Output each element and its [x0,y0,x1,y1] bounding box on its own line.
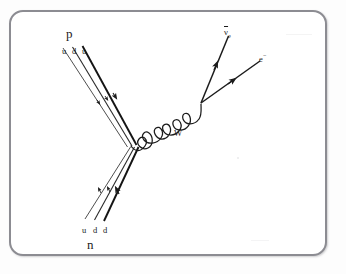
proton-quark-lines [63,46,137,147]
w-boson-wavy-line [131,104,201,151]
proton-quark-label-u2: u [82,47,86,56]
figure-root: p u d u u d d n W− νe e− [0,0,346,274]
neutron-quark-lines [85,147,139,221]
w-boson-label: W− [174,127,186,137]
quark-arrow-u3 [99,189,101,193]
neutron-quark-label-u: u [82,226,86,235]
antineutrino-label: νe [224,28,231,39]
neutron-quark-label-d1: d [93,226,97,235]
quark-line-u2 [83,46,137,145]
neutron-quark-label-d2: d [103,226,107,235]
proton-label: p [66,27,73,40]
proton-quark-label-d1: d [72,47,76,56]
electron-arrow [228,80,234,84]
quark-line-u1 [63,48,128,147]
quark-line-u3 [85,147,131,219]
quark-arrow-d1 [105,96,107,99]
quark-line-d1 [73,47,133,146]
quark-line-d2 [95,147,135,220]
proton-quark-label-u1: u [62,47,66,56]
quark-line-d3 [104,147,139,221]
quark-arrow-u2 [113,93,116,97]
w-boson-charge: − [182,127,186,133]
quark-arrow-u1 [97,100,99,103]
electron-charge: − [263,53,267,59]
neutron-label: n [87,238,94,251]
electron-label: e− [259,53,267,63]
w-boson-symbol: W [174,128,182,138]
feynman-diagram-canvas [0,0,346,274]
quark-arrow-d2 [108,188,110,192]
lepton-lines [201,36,260,103]
antineutrino-flavour: e [228,33,231,39]
